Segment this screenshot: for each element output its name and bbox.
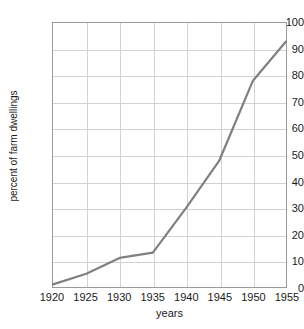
line-chart: percent of farm dwellings 01020304050607… [0,0,304,329]
x-axis-tick-label: 1955 [267,292,304,303]
y-axis-label: percent of farm dwellings [9,71,19,221]
plot-area [52,22,287,288]
data-series-line [53,23,286,287]
x-axis-label: years [52,308,287,319]
series-polyline [53,41,286,284]
